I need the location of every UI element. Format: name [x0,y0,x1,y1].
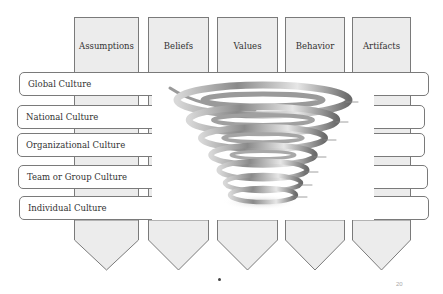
row-label: Global Culture [28,79,91,89]
row-label: National Culture [26,112,98,122]
tornado-spiral-icon [160,80,360,219]
column-behavior: Behavior [285,17,345,73]
arrow-head-values [217,220,278,270]
row-label: Team or Group Culture [27,172,127,182]
column-beliefs: Beliefs [148,17,209,73]
row-label: Organizational Culture [26,140,125,150]
column-artifacts: Artifacts [352,17,411,73]
arrow-head-artifacts [352,220,411,270]
column-values: Values [217,17,278,73]
arrow-head-behavior [285,220,345,270]
bullet-dot [218,278,221,281]
column-assumptions: Assumptions [74,17,139,73]
page-number: 20 [396,281,403,287]
row-label: Individual Culture [28,203,107,213]
arrow-head-beliefs [148,220,209,270]
arrow-head-assumptions [74,220,139,270]
